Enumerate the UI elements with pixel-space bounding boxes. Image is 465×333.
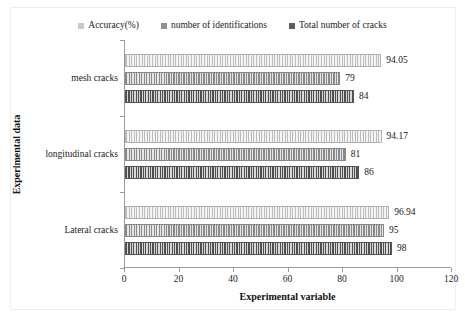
- x-axis-tick: [288, 268, 289, 272]
- bar-value-label: 94.17: [387, 131, 408, 142]
- legend-item-number-of-identifications[interactable]: number of identifications: [161, 20, 267, 31]
- plot-area: Lateral cracks96.949598longitudinal crac…: [124, 40, 451, 268]
- bar-row: 84: [125, 90, 368, 103]
- bar[interactable]: [125, 90, 354, 103]
- legend-label: Accuracy(%): [88, 20, 139, 31]
- bar-value-label: 79: [345, 73, 355, 84]
- legend-label: number of identifications: [171, 20, 267, 31]
- legend-label: Total number of cracks: [299, 20, 387, 31]
- x-axis-tick-label: 0: [122, 273, 127, 285]
- bar-row: 79: [125, 72, 355, 85]
- bar-row: 81: [125, 148, 360, 161]
- x-axis-tick-label: 100: [389, 273, 403, 285]
- x-axis-tick: [124, 268, 125, 272]
- y-axis-title-text: Experimental data: [12, 114, 23, 194]
- legend-swatch-icon: [289, 23, 295, 29]
- bar-row: 98: [125, 242, 407, 255]
- chart-container: Accuracy(%) number of identifications To…: [0, 0, 465, 333]
- bar-group: longitudinal cracks94.178186: [124, 116, 451, 192]
- legend-item-accuracy[interactable]: Accuracy(%): [78, 20, 139, 31]
- bar[interactable]: [125, 54, 381, 67]
- x-axis-tick-label: 60: [283, 273, 293, 285]
- bar-value-label: 81: [351, 149, 361, 160]
- bar[interactable]: [125, 72, 340, 85]
- x-axis-tick-label: 120: [444, 273, 458, 285]
- bar-value-label: 86: [364, 167, 374, 178]
- y-axis-category-label: mesh cracks: [71, 73, 118, 84]
- x-axis-tick-labels: 020406080100120: [124, 273, 451, 287]
- bar[interactable]: [125, 148, 346, 161]
- bar-row: 94.17: [125, 130, 408, 143]
- bar[interactable]: [125, 166, 359, 179]
- legend-swatch-icon: [78, 23, 84, 29]
- bar-group: mesh cracks94.057984: [124, 40, 451, 116]
- x-axis-tick: [233, 268, 234, 272]
- bar-row: 95: [125, 224, 398, 237]
- bar[interactable]: [125, 206, 389, 219]
- x-axis-tick: [451, 268, 452, 272]
- bar-row: 96.94: [125, 206, 416, 219]
- x-axis-tick: [397, 268, 398, 272]
- x-axis-tick: [342, 268, 343, 272]
- bar-group: Lateral cracks96.949598: [124, 192, 451, 268]
- x-axis-tick-label: 40: [228, 273, 238, 285]
- bar[interactable]: [125, 242, 392, 255]
- y-axis-category-label: longitudinal cracks: [45, 149, 118, 160]
- chart-legend: Accuracy(%) number of identifications To…: [0, 20, 465, 31]
- legend-item-total-number-of-cracks[interactable]: Total number of cracks: [289, 20, 387, 31]
- bar-value-label: 96.94: [394, 207, 415, 218]
- legend-swatch-icon: [161, 23, 167, 29]
- bar-value-label: 98: [397, 243, 407, 254]
- y-axis-title: Experimental data: [10, 40, 24, 268]
- y-axis-category-label: Lateral cracks: [64, 225, 118, 236]
- x-axis-tick-label: 80: [337, 273, 347, 285]
- x-axis-title: Experimental variable: [124, 291, 451, 302]
- bar-value-label: 84: [359, 91, 369, 102]
- x-axis-tick-label: 20: [174, 273, 184, 285]
- bar-row: 94.05: [125, 54, 408, 67]
- bar-row: 86: [125, 166, 374, 179]
- bar[interactable]: [125, 224, 384, 237]
- bar-value-label: 95: [389, 225, 399, 236]
- bar[interactable]: [125, 130, 382, 143]
- x-axis-tick: [179, 268, 180, 272]
- bar-value-label: 94.05: [386, 55, 407, 66]
